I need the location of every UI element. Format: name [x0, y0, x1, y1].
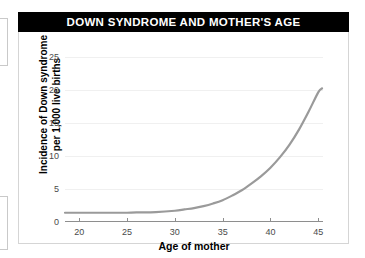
y-tick-label: 10 [49, 151, 59, 161]
x-tick-label: 30 [170, 227, 180, 237]
x-tick-label: 20 [74, 227, 84, 237]
incidence-curve-path [65, 88, 322, 212]
x-tick-label: 35 [218, 227, 228, 237]
x-axis-title: Age of mother [65, 240, 323, 252]
x-tick-label: 25 [122, 227, 132, 237]
y-tick-label: 25 [49, 52, 59, 62]
chart-title-bar: DOWN SYNDROME AND MOTHER'S AGE [18, 12, 349, 32]
x-tick-label: 40 [265, 227, 275, 237]
y-tick-label: 0 [54, 217, 59, 227]
chart-figure: DOWN SYNDROME AND MOTHER'S AGE Incidence… [18, 12, 349, 244]
x-tick-label: 45 [313, 227, 323, 237]
incidence-curve [65, 50, 323, 222]
plot-area: 0510152025 202530354045 [65, 50, 323, 222]
y-tick-label: 20 [49, 85, 59, 95]
chart-body: Incidence of Down syndrome per 1,000 liv… [18, 32, 349, 244]
chart-title: DOWN SYNDROME AND MOTHER'S AGE [67, 16, 301, 28]
y-tick-label: 15 [49, 118, 59, 128]
page-margin-artifact-bottom [0, 196, 8, 250]
y-tick-label: 5 [54, 184, 59, 194]
page-margin-artifact-top [0, 18, 8, 66]
